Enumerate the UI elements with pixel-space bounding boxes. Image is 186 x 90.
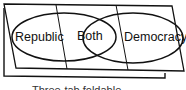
figure-caption: Three-tab foldable — [32, 84, 121, 90]
label-republic: Republic — [15, 30, 64, 44]
label-both: Both — [77, 29, 103, 43]
foldable-diagram — [0, 0, 186, 90]
label-democracy: Democracy — [124, 30, 186, 44]
